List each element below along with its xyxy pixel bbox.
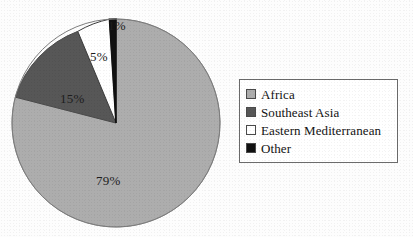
legend-swatch-eastern-mediterranean — [246, 125, 256, 135]
legend-label-southeast-asia: Southeast Asia — [261, 106, 339, 119]
legend-label-eastern-mediterranean: Eastern Mediterranean — [261, 124, 381, 137]
pie-slice-label-southeast-asia: 15% — [60, 92, 84, 105]
pie-chart-figure: 79% 15% 5% 1% Africa Southeast Asia East… — [0, 0, 413, 237]
legend-item-southeast-asia[interactable]: Southeast Asia — [246, 103, 393, 121]
pie-slice-label-eastern-mediterranean: 5% — [90, 50, 108, 63]
legend-label-africa: Africa — [261, 88, 295, 101]
legend-item-eastern-mediterranean[interactable]: Eastern Mediterranean — [246, 121, 393, 139]
pie-slice-label-africa: 79% — [96, 174, 120, 187]
pie-slice-label-other: 1% — [108, 19, 126, 32]
chart-legend: Africa Southeast Asia Eastern Mediterran… — [239, 79, 398, 163]
legend-swatch-southeast-asia — [246, 107, 256, 117]
legend-swatch-africa — [246, 89, 256, 99]
legend-item-africa[interactable]: Africa — [246, 85, 393, 103]
pie-chart-plot-area: 79% 15% 5% 1% — [8, 14, 224, 230]
pie-chart-svg — [8, 14, 224, 230]
legend-swatch-other — [246, 143, 256, 153]
legend-item-other[interactable]: Other — [246, 139, 393, 157]
legend-label-other: Other — [261, 142, 291, 155]
